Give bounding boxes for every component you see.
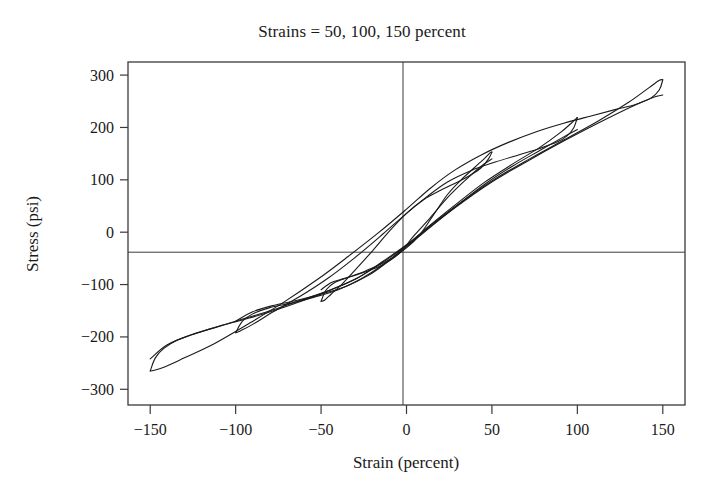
y-axis-tick-labels: 3002001000−100−200−300 bbox=[81, 67, 114, 398]
x-tick-label: −50 bbox=[309, 421, 334, 438]
x-axis-title: Strain (percent) bbox=[353, 453, 459, 472]
y-axis-title: Stress (psi) bbox=[23, 196, 42, 272]
hysteresis-secondary-curve bbox=[150, 95, 663, 359]
chart-page: Strains = 50, 100, 150 percent 300200100… bbox=[0, 0, 724, 495]
y-tick-label: 100 bbox=[90, 171, 114, 188]
y-tick-label: −300 bbox=[81, 381, 114, 398]
x-tick-label: 0 bbox=[403, 421, 411, 438]
x-tick-label: 100 bbox=[565, 421, 589, 438]
y-axis-ticks bbox=[120, 75, 128, 389]
y-tick-label: −100 bbox=[81, 276, 114, 293]
x-tick-label: 150 bbox=[651, 421, 675, 438]
y-tick-label: 300 bbox=[90, 67, 114, 84]
hysteresis-secondary-curve bbox=[236, 130, 578, 322]
stress-strain-plot: 3002001000−100−200−300 −150−100−50050100… bbox=[0, 0, 724, 495]
hysteresis-curves bbox=[150, 80, 663, 371]
hysteresis-secondary-curve bbox=[321, 159, 492, 290]
x-tick-label: −100 bbox=[219, 421, 252, 438]
x-tick-label: −150 bbox=[134, 421, 167, 438]
y-tick-label: 200 bbox=[90, 119, 114, 136]
y-tick-label: 0 bbox=[106, 224, 114, 241]
x-axis-ticks bbox=[150, 405, 663, 414]
x-axis-tick-labels: −150−100−50050100150 bbox=[134, 421, 675, 438]
hysteresis-unloading-curve bbox=[150, 80, 663, 371]
x-tick-label: 50 bbox=[484, 421, 500, 438]
hysteresis-loading-curve bbox=[150, 80, 663, 371]
y-tick-label: −200 bbox=[81, 328, 114, 345]
